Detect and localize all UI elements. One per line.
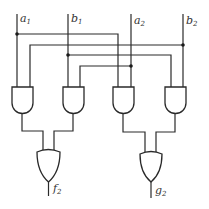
logic-circuit-diagram: a1 b1 a2 b2 f2 g2 [0,0,209,209]
and-gate-2 [63,87,84,114]
and-gates [12,87,186,114]
and-gate-1 [12,87,33,114]
output-wires [49,182,152,198]
or-gate-2 [140,152,162,183]
input-label-b2: b2 [186,14,198,28]
or-gate-1 [37,150,60,183]
junction-dots [15,32,185,68]
and-gate-4 [165,87,186,114]
and-gate-3 [113,87,134,114]
input-label-a1: a1 [20,12,31,26]
input-label-b1: b1 [71,12,83,26]
input-label-a2: a2 [134,14,146,28]
output-label-g2: g2 [155,184,167,198]
input-wires [17,14,183,87]
cross-wires [17,34,183,87]
output-label-f2: f2 [52,182,62,196]
or-input-wires [22,113,175,154]
or-gates [37,150,162,183]
